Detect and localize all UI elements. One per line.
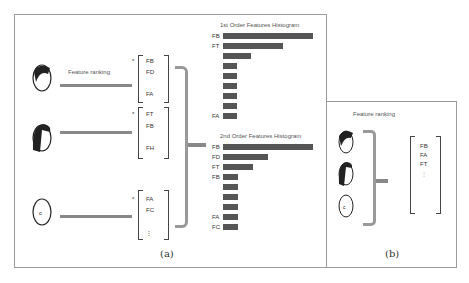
merge-arrow — [188, 143, 206, 147]
rank-item: FD — [146, 69, 154, 75]
rank-item: ⋮ — [421, 170, 427, 177]
rank-item: FH — [146, 145, 154, 151]
bracket — [164, 55, 169, 103]
caption-b: (b) — [385, 248, 399, 259]
hist-label: FB — [212, 174, 220, 180]
rank-item: FT — [420, 161, 427, 167]
rank-item: FA — [146, 91, 153, 97]
rank-item: FC — [146, 207, 154, 213]
bracket — [138, 107, 143, 159]
hist-label: FB — [212, 33, 220, 39]
mark: * — [132, 196, 134, 202]
rank-item: ⋮ — [146, 229, 152, 236]
rank-item: FB — [146, 123, 154, 129]
bracket — [164, 190, 169, 240]
bracket — [138, 55, 143, 103]
hist-label: FA — [212, 214, 219, 220]
merge-bracket — [175, 66, 188, 228]
face-icon: c — [336, 128, 356, 223]
hist-label: FB — [212, 144, 220, 150]
hist-label: FA — [212, 113, 219, 119]
svg-text:c: c — [343, 204, 346, 210]
rank-item: FA — [146, 196, 153, 202]
hist-label: FT — [212, 43, 219, 49]
rank-item: FB — [420, 143, 428, 149]
rank-item: FT — [146, 111, 153, 117]
histogram1-title: 1st Order Features Histogram — [220, 22, 299, 28]
bracket — [436, 136, 441, 214]
hist-label: FD — [212, 154, 220, 160]
arrow — [60, 84, 132, 87]
hist-label: FC — [212, 224, 220, 230]
feature-ranking-label: Feature ranking — [68, 69, 110, 75]
svg-text:c: c — [39, 210, 42, 216]
merge-arrow-b — [376, 179, 388, 183]
rank-item: FA — [420, 152, 427, 158]
mark: * — [132, 58, 134, 64]
caption-a: (a) — [160, 248, 174, 259]
histogram2-title: 2nd Order Features Histogram — [220, 133, 301, 139]
mark: * — [132, 111, 134, 117]
feature-ranking-label-b: Feature ranking — [353, 111, 395, 117]
rank-item: FB — [146, 58, 154, 64]
face-icon: c — [30, 60, 55, 240]
arrow — [60, 215, 132, 218]
histogram2 — [223, 144, 313, 232]
merge-bracket-b — [363, 130, 376, 226]
hist-label: FT — [212, 164, 219, 170]
bracket — [164, 107, 169, 159]
bracket — [138, 190, 143, 240]
bracket — [410, 136, 415, 214]
histogram1 — [223, 33, 313, 121]
arrow — [60, 131, 132, 134]
